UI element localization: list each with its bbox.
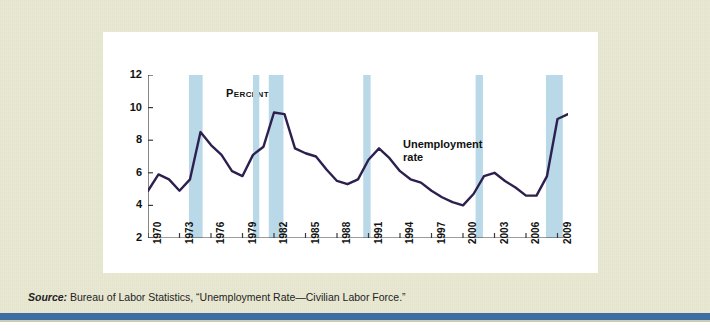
- figure-root: Percent 12108642 19701973197619791982198…: [0, 0, 710, 331]
- y-tick-label: 8: [120, 133, 142, 145]
- x-tick-label: 1979: [247, 222, 258, 244]
- x-tick-label: 1976: [215, 222, 226, 244]
- source-label: Source:: [28, 291, 67, 303]
- x-tick-label: 1973: [184, 222, 195, 244]
- y-tick-label: 10: [120, 101, 142, 113]
- x-tick-label: 1982: [278, 222, 289, 244]
- recession-band: [253, 75, 259, 238]
- footer-rule-shadow: [0, 320, 710, 322]
- series-annotation: Unemployment rate: [403, 138, 482, 164]
- x-tick-label: 1988: [341, 222, 352, 244]
- source-note: Source: Bureau of Labor Statistics, “Une…: [28, 291, 406, 303]
- recession-band: [546, 75, 563, 238]
- axis-lines: [148, 75, 568, 238]
- y-tick-label: 6: [120, 166, 142, 178]
- source-body: Bureau of Labor Statistics, “Unemploymen…: [67, 291, 405, 303]
- x-tick-label: 2009: [562, 222, 573, 244]
- x-tick-label: 2000: [467, 222, 478, 244]
- line-chart-svg: [148, 75, 568, 238]
- footer-rule: [0, 313, 710, 320]
- chart-panel: Percent 12108642 19701973197619791982198…: [103, 32, 598, 273]
- x-tick-label: 1994: [404, 222, 415, 244]
- series-line-unemployment-rate: [148, 112, 568, 205]
- y-tick-label: 12: [120, 68, 142, 80]
- x-tick-label: 2003: [499, 222, 510, 244]
- recession-band: [269, 75, 284, 238]
- annotation-line-1: Unemployment: [403, 138, 482, 151]
- y-tick-label: 2: [120, 231, 142, 243]
- x-tick-label: 1997: [436, 222, 447, 244]
- x-tick-label: 1991: [373, 222, 384, 244]
- plot-area: [148, 75, 568, 238]
- y-tick-label: 4: [120, 198, 142, 210]
- x-tick-label: 1985: [310, 222, 321, 244]
- x-tick-label: 2006: [530, 222, 541, 244]
- annotation-line-2: rate: [403, 151, 482, 164]
- x-tick-label: 1970: [152, 222, 163, 244]
- recession-band: [363, 75, 370, 238]
